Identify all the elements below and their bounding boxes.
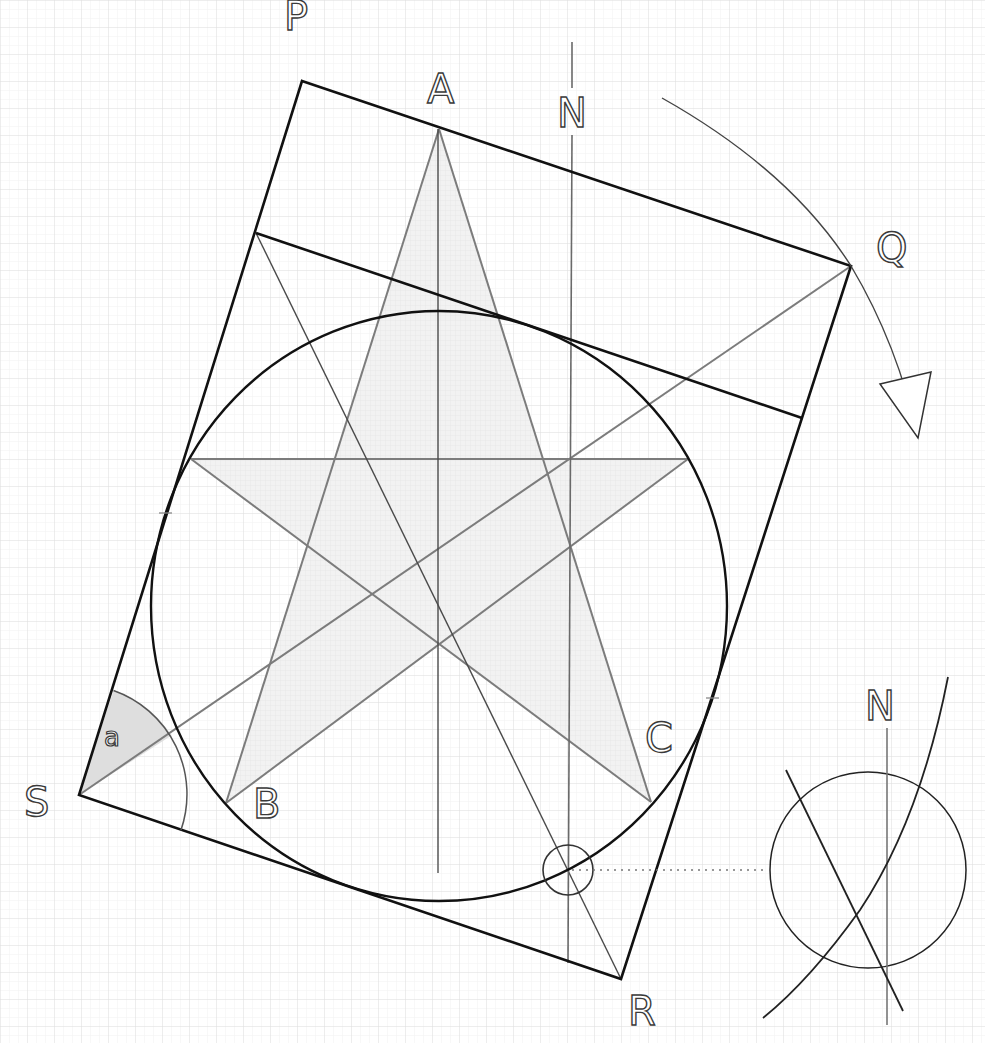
label-r: R — [628, 988, 656, 1034]
label-n-detail: N — [865, 683, 895, 729]
label-c: C — [645, 715, 673, 761]
label-angle-a: a — [104, 722, 120, 752]
label-q: Q — [876, 225, 907, 271]
label-s: S — [24, 779, 49, 825]
label-n-main: N — [557, 90, 587, 136]
label-p: P — [284, 0, 308, 39]
label-b: B — [253, 781, 280, 827]
geometry-diagram: P A N Q S B C R N a — [0, 0, 985, 1043]
label-a: A — [427, 66, 455, 112]
